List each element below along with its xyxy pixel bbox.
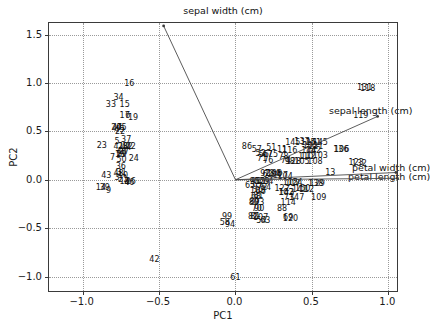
x-tick-label: 0.0 <box>227 296 243 307</box>
plot-frame: 1634331517619204745224953723412844321227… <box>48 22 398 292</box>
vector-head <box>376 115 379 118</box>
tick-mark-x <box>159 291 160 295</box>
tick-mark-y <box>45 35 49 36</box>
x-axis-title: PC1 <box>213 310 232 321</box>
y-tick-label: 0.5 <box>26 125 42 136</box>
tick-mark-y <box>45 131 49 132</box>
y-tick-label: 0.0 <box>26 173 42 184</box>
x-tick-label: 0.5 <box>303 296 319 307</box>
tick-mark-x <box>83 291 84 295</box>
pca-biplot-figure: PC2 PC1 −1.0−0.50.00.51.0−1.0−0.50.00.51… <box>0 0 434 328</box>
tick-mark-x <box>388 291 389 295</box>
x-tick-label: −1.0 <box>69 296 93 307</box>
feature-vector-arrows <box>49 23 399 293</box>
tick-mark-x <box>312 291 313 295</box>
y-tick-label: 1.0 <box>26 77 42 88</box>
y-axis-title: PC2 <box>8 147 19 166</box>
tick-mark-y <box>45 228 49 229</box>
vector-label-sepal-width: sepal width (cm) <box>183 6 262 16</box>
vector-line <box>235 116 377 179</box>
vector-head <box>396 177 399 180</box>
tick-mark-x <box>235 291 236 295</box>
y-tick-label: −1.0 <box>18 270 42 281</box>
vector-head <box>395 171 398 174</box>
tick-mark-y <box>45 83 49 84</box>
x-tick-label: −0.5 <box>146 296 170 307</box>
tick-mark-y <box>45 180 49 181</box>
vector-head <box>162 25 165 28</box>
y-tick-label: 1.5 <box>26 28 42 39</box>
vector-line <box>164 26 236 180</box>
tick-mark-y <box>45 277 49 278</box>
x-tick-label: 1.0 <box>379 296 395 307</box>
y-tick-label: −0.5 <box>18 222 42 233</box>
